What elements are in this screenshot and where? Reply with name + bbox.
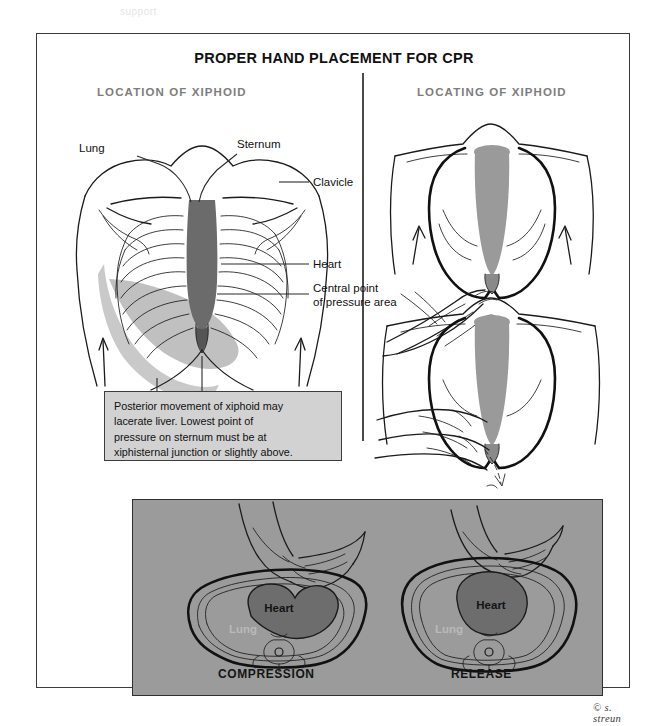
- page-top-faint-text: support: [0, 0, 665, 22]
- label-sternum: Sternum: [237, 138, 280, 150]
- locating-of-xiphoid-figure: [367, 104, 629, 444]
- section-heading-locating: LOCATING OF XIPHOID: [417, 86, 567, 98]
- label-lung: Lung: [79, 142, 105, 154]
- caption-compression: COMPRESSION: [218, 667, 315, 681]
- compression-heart-label: Heart: [264, 602, 294, 614]
- release-lung-label: Lung: [435, 623, 463, 635]
- locating-step-two: [375, 292, 600, 488]
- page-title: PROPER HAND PLACEMENT FOR CPR: [37, 50, 631, 66]
- compression-lung-label: Lung: [229, 623, 257, 635]
- cross-section-panel: Heart Lung: [132, 499, 603, 696]
- cpr-illustration-plate: PROPER HAND PLACEMENT FOR CPR LOCATION O…: [36, 33, 630, 688]
- release-heart-label: Heart: [476, 599, 506, 611]
- section-heading-location: LOCATION OF XIPHOID: [97, 86, 247, 98]
- warning-callout-box: Posterior movement of xiphoid may lacera…: [104, 391, 342, 461]
- label-heart: Heart: [313, 258, 342, 270]
- artist-credit: © s. streun: [593, 702, 629, 724]
- callout-line-4: xiphisternal junction or slightly above.: [114, 445, 332, 460]
- callout-line-2: lacerate liver. Lowest point of: [114, 414, 332, 429]
- release-cross-section: Heart Lung: [402, 506, 576, 673]
- compression-cross-section: Heart Lung: [188, 502, 366, 672]
- caption-release: RELEASE: [451, 667, 512, 681]
- callout-line-3: pressure on sternum must be at: [114, 430, 332, 445]
- label-clavicle: Clavicle: [313, 176, 353, 188]
- callout-line-1: Posterior movement of xiphoid may: [114, 399, 332, 414]
